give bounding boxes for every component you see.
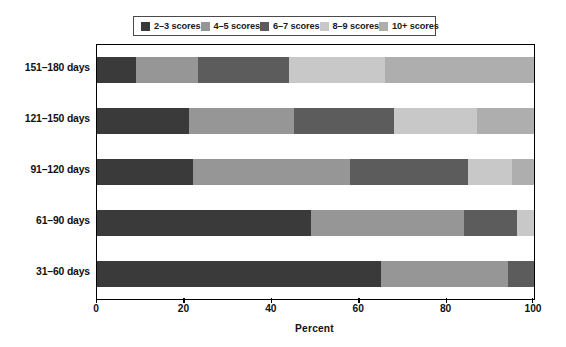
bar-segment	[97, 261, 381, 287]
bar-segment	[508, 261, 534, 287]
legend-swatch-10-plus-scores	[379, 22, 388, 31]
bar-segment	[394, 108, 477, 134]
bar-segment	[189, 108, 294, 134]
bar-row	[97, 261, 534, 287]
bar-segment	[97, 210, 311, 236]
chart-figure: 2–3 scores 4–5 scores 6–7 scores 8–9 sco…	[0, 0, 566, 347]
legend-item-2-3-scores: 2–3 scores	[141, 21, 201, 31]
x-axis-tick-label: 40	[265, 303, 276, 314]
y-axis-tick-label: 61–90 days	[2, 215, 90, 226]
legend-swatch-4-5-scores	[201, 22, 210, 31]
y-axis-tick-label: 151–180 days	[2, 62, 90, 73]
x-axis-tick-label: 80	[440, 303, 451, 314]
bar-segment	[381, 261, 508, 287]
bar-row	[97, 210, 534, 236]
legend-item-4-5-scores: 4–5 scores	[201, 21, 261, 31]
bar-segment	[350, 159, 468, 185]
bar-row	[97, 57, 534, 83]
plot-area	[96, 44, 535, 300]
bar-segment	[97, 159, 193, 185]
bar-segment	[311, 210, 464, 236]
x-axis-title: Percent	[96, 323, 533, 334]
bar-segment	[97, 57, 136, 83]
y-axis-tick-label: 121–150 days	[2, 113, 90, 124]
legend-label-10-plus-scores: 10+ scores	[392, 21, 439, 31]
x-axis-tick-label: 100	[525, 303, 542, 314]
legend-label-4-5-scores: 4–5 scores	[214, 21, 261, 31]
legend-swatch-6-7-scores	[260, 22, 269, 31]
legend-item-8-9-scores: 8–9 scores	[320, 21, 380, 31]
legend-item-10-plus-scores: 10+ scores	[379, 21, 439, 31]
bar-segment	[468, 159, 512, 185]
bar-segment	[512, 159, 534, 185]
bar-segment	[385, 57, 534, 83]
chart-legend: 2–3 scores 4–5 scores 6–7 scores 8–9 sco…	[133, 16, 436, 36]
legend-swatch-2-3-scores	[141, 22, 150, 31]
legend-item-6-7-scores: 6–7 scores	[260, 21, 320, 31]
x-axis: 020406080100	[96, 298, 533, 318]
bar-segment	[289, 57, 385, 83]
x-axis-tick-label: 60	[353, 303, 364, 314]
legend-label-2-3-scores: 2–3 scores	[154, 21, 201, 31]
bar-row	[97, 108, 534, 134]
y-axis-tick-label: 91–120 days	[2, 164, 90, 175]
bar-segment	[294, 108, 395, 134]
legend-label-8-9-scores: 8–9 scores	[333, 21, 380, 31]
x-axis-tick-label: 20	[178, 303, 189, 314]
bar-segment	[517, 210, 534, 236]
legend-swatch-8-9-scores	[320, 22, 329, 31]
legend-label-6-7-scores: 6–7 scores	[273, 21, 320, 31]
y-axis-tick-label: 31–60 days	[2, 266, 90, 277]
y-axis-labels: 151–180 days121–150 days91–120 days61–90…	[0, 44, 90, 298]
bar-row	[97, 159, 534, 185]
x-axis-tick-label: 0	[93, 303, 99, 314]
bar-segment	[193, 159, 350, 185]
bar-segment	[97, 108, 189, 134]
bar-segment	[198, 57, 290, 83]
bar-segment	[464, 210, 516, 236]
bars-layer	[97, 45, 534, 299]
bar-segment	[477, 108, 534, 134]
bar-segment	[136, 57, 197, 83]
